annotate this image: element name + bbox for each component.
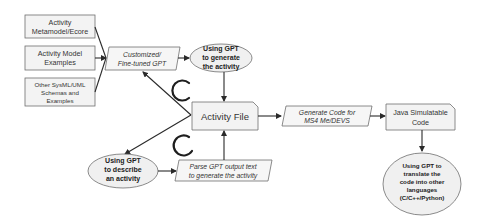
describe-activity-line-2: to describe: [104, 166, 141, 173]
workflow-diagram: Activity Metamodel/Ecore Activity Model …: [0, 0, 489, 223]
java-code-line-1: Java Simulatable: [393, 108, 448, 117]
arrow-file-to-customized: [143, 72, 191, 115]
metamodel-line-2: Metamodel/Ecore: [32, 27, 88, 36]
arrow-file-to-describe: [125, 115, 191, 154]
translate-code-node: Using GPT to translate the code into oth…: [383, 153, 461, 215]
translate-line-3: code into other: [400, 178, 445, 185]
generate-code-line-1: Generate Code for: [299, 109, 356, 116]
customized-gpt-node: Customized/ Fine-tuned GPT: [105, 47, 180, 70]
java-code-line-2: Code: [412, 118, 429, 127]
parse-output-node: Parse GPT output text to generate the ac…: [175, 160, 272, 181]
generate-activity-node: Using GPT to generate the activity: [190, 44, 252, 72]
translate-line-2: translate the: [404, 170, 441, 177]
describe-activity-line-3: an activity: [106, 175, 140, 183]
sysml-line-3: Examples: [46, 97, 73, 104]
generate-code-node: Generate Code for MS4 Me/DEVS: [282, 106, 372, 126]
generate-activity-line-1: Using GPT: [203, 45, 240, 53]
generate-activity-line-3: the activity: [203, 63, 240, 71]
connector-metamodel: [95, 27, 106, 58]
sysml-line-2: Schemas and: [41, 89, 79, 96]
model-examples-line-2: Examples: [44, 58, 76, 67]
translate-line-4: languages: [407, 186, 438, 193]
customized-gpt-line-2: Fine-tuned GPT: [118, 60, 167, 67]
connector-sysml: [95, 58, 106, 92]
activity-file-label: Activity File: [201, 111, 249, 122]
generate-activity-line-2: to generate: [202, 54, 240, 62]
input-box-metamodel: Activity Metamodel/Ecore: [25, 15, 95, 38]
cycle-icon-upper: [172, 81, 189, 101]
cycle-icon-lower: [174, 135, 192, 155]
translate-line-5: (C/C++/Python): [400, 194, 445, 201]
translate-line-1: Using GPT to: [402, 162, 441, 169]
input-box-model-examples: Activity Model Examples: [25, 46, 95, 70]
activity-file-node: Activity File: [192, 102, 258, 130]
describe-activity-line-1: Using GPT: [105, 157, 142, 165]
metamodel-line-1: Activity: [49, 18, 72, 27]
input-box-sysml-schemas: Other SysML/UML Schemas and Examples: [25, 78, 95, 106]
parse-output-line-2: to generate the activity: [189, 172, 258, 180]
generate-code-line-2: MS4 Me/DEVS: [304, 117, 350, 124]
parse-output-line-1: Parse GPT output text: [189, 163, 257, 171]
customized-gpt-line-1: Customized/: [123, 51, 162, 58]
sysml-line-1: Other SysML/UML: [35, 81, 86, 88]
model-examples-line-1: Activity Model: [38, 49, 83, 58]
describe-activity-node: Using GPT to describe an activity: [88, 154, 158, 188]
java-code-node: Java Simulatable Code: [386, 104, 455, 130]
